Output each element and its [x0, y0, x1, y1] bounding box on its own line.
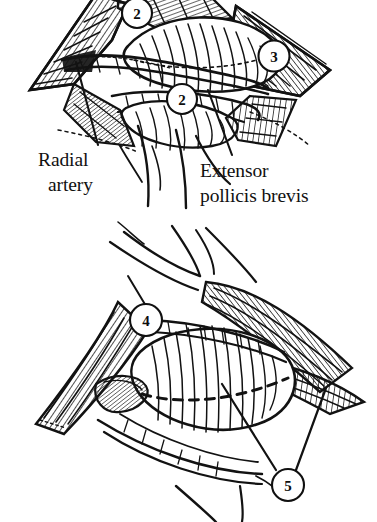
marker-low-5-label: 5 [284, 478, 292, 494]
extensor-pollicis-brevis-line-1: Extensor [200, 160, 269, 181]
marker-mid-2[interactable]: 2 [167, 84, 197, 114]
illustration-canvas: 2 3 2 4 5 Radial artery Extensor pollici… [0, 0, 377, 522]
marker-low-4-label: 4 [142, 313, 150, 329]
anatomy-figure-plate: 2 3 2 4 5 Radial artery Extensor pollici… [0, 0, 377, 522]
marker-low-4[interactable]: 4 [130, 304, 162, 336]
marker-top-2[interactable]: 2 [122, 0, 152, 28]
marker-right-3[interactable]: 3 [259, 41, 290, 72]
marker-low-5[interactable]: 5 [272, 469, 304, 501]
marker-right-3-label: 3 [270, 49, 278, 65]
radial-artery-line-2: artery [48, 174, 93, 195]
marker-mid-2-label: 2 [178, 92, 186, 108]
radial-artery-line-1: Radial [38, 149, 89, 170]
marker-top-2-label: 2 [133, 6, 141, 22]
extensor-pollicis-brevis-line-2: pollicis brevis [200, 185, 308, 206]
